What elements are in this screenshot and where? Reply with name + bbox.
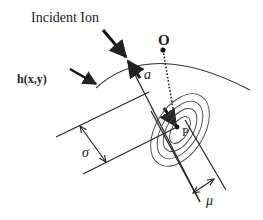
surface-pointer-arrow (70, 69, 96, 84)
incident-ion-arrow (103, 30, 126, 57)
origin-label: O (158, 32, 170, 48)
depth-arrow-lower (164, 108, 176, 126)
surface-label: h(x,y) (17, 72, 47, 86)
mu-dimension-arrow (193, 179, 214, 193)
origin-point (160, 47, 165, 52)
point-label: P (182, 125, 189, 139)
ion-sputtering-diagram: Incident Ion h(x,y) O P a σ μ (0, 0, 263, 220)
surface-arc (96, 63, 250, 90)
sigma-line-upper (56, 92, 149, 137)
incident-ion-label: Incident Ion (31, 10, 99, 25)
mu-label: μ (205, 193, 213, 208)
energy-ellipses (138, 83, 221, 176)
depth-label: a (144, 67, 151, 82)
sigma-label: σ (82, 145, 90, 160)
